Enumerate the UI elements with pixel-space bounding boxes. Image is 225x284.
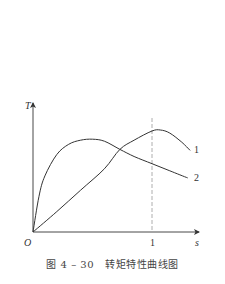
x-tick-label-1: 1	[150, 238, 155, 248]
figure-caption: 图 4 – 30 转矩特性曲线图	[0, 256, 225, 271]
origin-label: O	[24, 238, 31, 248]
plot-area	[0, 0, 225, 284]
curve-1-label: 1	[194, 145, 199, 155]
x-axis-label: s	[195, 238, 199, 248]
curve-2	[33, 139, 188, 232]
y-axis-label: T	[25, 101, 31, 111]
torque-characteristic-figure: T s O 1 1 2 图 4 – 30 转矩特性曲线图	[0, 0, 225, 284]
curve-2-label: 2	[194, 173, 199, 183]
